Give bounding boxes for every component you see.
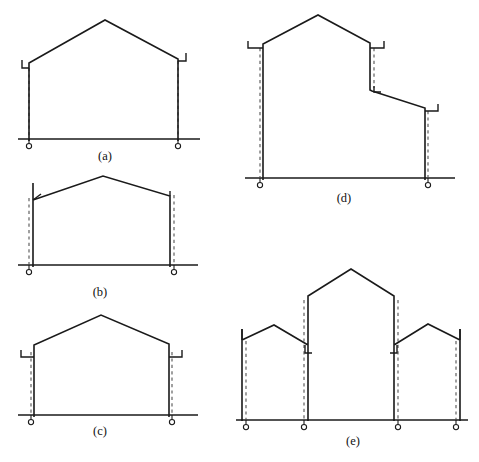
support-pin-circle [175, 144, 180, 149]
figure-caption-b: (b) [93, 285, 108, 299]
support-pin-circle [395, 425, 400, 430]
left-eave-bracket-d [248, 41, 263, 48]
right-eave-bracket-a [178, 53, 186, 61]
left-pin-support-d [257, 178, 262, 188]
left-pin-support-b [26, 265, 31, 275]
support-pin-circle [453, 425, 458, 430]
support-pin-circle [26, 144, 31, 149]
left-eave-bracket-a [22, 60, 29, 68]
left-eave-bracket-c [21, 350, 34, 357]
figure-caption-c: (c) [93, 424, 107, 438]
figure-page: (a)(b)(c)(d)(e) [0, 0, 479, 462]
support-pin-circle [425, 183, 430, 188]
frame-outline-c [34, 315, 169, 417]
pin-support-4-e [453, 420, 458, 430]
figure-caption-a: (a) [98, 149, 112, 163]
right-pin-support-c [169, 415, 174, 425]
figure-c: (c) [18, 315, 198, 438]
figures-root: (a)(b)(c)(d)(e) [18, 15, 468, 448]
figure-caption-e: (e) [346, 434, 360, 448]
pin-support-2-e [301, 420, 306, 430]
support-pin-circle [257, 183, 262, 188]
support-pin-circle [26, 270, 31, 275]
support-pin-circle [169, 420, 174, 425]
support-pin-circle [243, 425, 248, 430]
frame-outline-a [29, 20, 178, 141]
pin-support-1-e [243, 420, 248, 430]
right-pin-support-b [171, 265, 176, 275]
frame-outline-d [263, 15, 425, 180]
right-eave-bracket-c [169, 350, 182, 357]
figure-a: (a) [18, 20, 200, 163]
upper-step-bracket-d [370, 41, 384, 48]
right-eave-bracket-d [425, 104, 438, 111]
figure-d: (d) [245, 15, 455, 205]
frame-diagram-svg: (a)(b)(c)(d)(e) [0, 0, 479, 462]
figure-caption-d: (d) [337, 191, 352, 205]
left-pin-support-c [28, 415, 33, 425]
support-pin-circle [301, 425, 306, 430]
figure-e: (e) [236, 269, 468, 448]
right-pin-support-d [425, 178, 430, 188]
support-pin-circle [28, 420, 33, 425]
right-pin-support-a [175, 139, 180, 149]
support-pin-circle [171, 270, 176, 275]
step-foot-hook-d [374, 86, 381, 92]
figure-b: (b) [18, 176, 198, 299]
pin-support-3-e [395, 420, 400, 430]
frame-outline-b [33, 176, 170, 267]
left-pin-support-a [26, 139, 31, 149]
frame-outline-e [242, 269, 460, 421]
